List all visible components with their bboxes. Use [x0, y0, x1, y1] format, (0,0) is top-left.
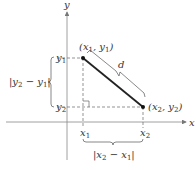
diagram-svg: y x d (x1, y1) (x2, y2) y1 y2 |y2 − y1| …: [0, 0, 196, 170]
horizontal-brace: [83, 139, 143, 145]
x2-label: x2: [140, 127, 150, 140]
right-angle-marker: [83, 101, 89, 107]
point-2: [141, 105, 145, 109]
segment-d-label: d: [118, 59, 124, 70]
point-1-label: (x1, y1): [79, 41, 114, 54]
x-axis-label: x: [189, 117, 195, 128]
point-2-label: (x2, y2): [148, 101, 183, 114]
y-axis-label: y: [63, 0, 70, 10]
y2-label: y2: [55, 101, 66, 114]
segment-d: [83, 58, 143, 107]
vertical-distance-label: |y2 − y1|: [9, 76, 51, 89]
distance-diagram: y x d (x1, y1) (x2, y2) y1 y2 |y2 − y1| …: [0, 0, 196, 170]
y1-label: y1: [55, 52, 66, 65]
segment-brace: [87, 50, 145, 97]
point-1: [81, 56, 85, 60]
dashed-guides: [57, 58, 143, 128]
x1-label: x1: [80, 127, 90, 140]
horizontal-distance-label: |x2 − x1|: [93, 149, 135, 162]
